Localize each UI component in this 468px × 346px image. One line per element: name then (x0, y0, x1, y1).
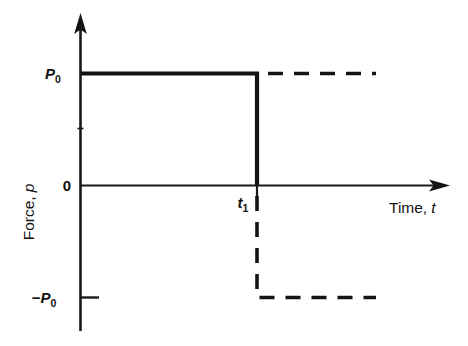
y-tick-label-minus-p0-subscript: 0 (50, 297, 56, 309)
negative-step-load-dashed-path (257, 196, 376, 298)
x-axis-title-main: Time, (389, 199, 427, 216)
axes-group (74, 13, 450, 331)
x-tick-label-t1-subscript: 1 (243, 202, 249, 214)
x-axis-title-symbol: t (431, 199, 436, 216)
y-tick-label-p0-subscript: 0 (55, 73, 61, 85)
axis-titles-group: Force,p Time,t (20, 183, 436, 240)
rectangular-pulse-solid-path (81, 74, 258, 186)
x-tick-label-t1: t1 (238, 194, 249, 214)
pulse-solid-group (81, 74, 258, 186)
tick-labels-group: P0 0 −P0 t1 (32, 65, 249, 309)
y-tick-label-zero: 0 (63, 177, 71, 194)
y-axis-title-symbol: p (20, 183, 37, 193)
chart-canvas: P0 0 −P0 t1 Force,p Time,t (0, 0, 468, 346)
force-time-pulse-figure: P0 0 −P0 t1 Force,p Time,t (0, 0, 468, 346)
y-tick-label-minus-p0: −P0 (32, 289, 57, 309)
x-axis-title: Time,t (389, 199, 436, 216)
y-axis-title: Force,p (20, 183, 37, 240)
y-tick-label-p0: P0 (45, 65, 61, 85)
y-tick-label-minus-p0-prefix: − (32, 289, 41, 306)
y-axis-title-main: Force, (20, 196, 37, 240)
pulse-dashed-bottom-group (257, 196, 376, 298)
